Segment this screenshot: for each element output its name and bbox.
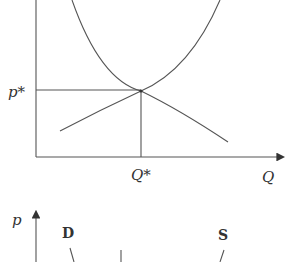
x-axis-label: Q — [262, 168, 274, 186]
equilibrium-point — [139, 89, 142, 92]
demand-curve-bottom — [70, 248, 74, 262]
demand-label: D — [62, 225, 74, 241]
supply-curve-bottom — [220, 250, 224, 262]
bottom-chart: p D S — [12, 211, 228, 262]
demand-curve — [72, 0, 228, 142]
supply-label: S — [218, 227, 228, 243]
p-star-label: p* — [8, 83, 26, 101]
q-star-label: Q* — [131, 166, 151, 184]
supply-curve — [60, 0, 220, 131]
diagram-canvas: p* Q* Q p D S — [0, 0, 295, 262]
top-chart: p* Q* Q — [8, 0, 283, 186]
p-axis-label: p — [12, 211, 22, 229]
